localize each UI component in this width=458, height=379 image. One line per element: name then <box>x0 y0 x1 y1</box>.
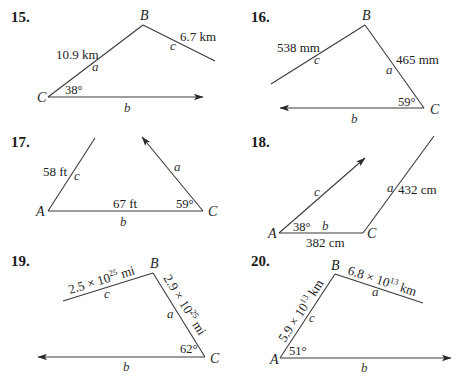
side-a-label: a <box>92 59 99 74</box>
side-c-label: c <box>74 168 80 183</box>
side-c-label: c <box>314 52 320 67</box>
vertex-label-c: C <box>37 90 47 105</box>
side-a-label: a <box>372 284 379 299</box>
side-c-label: c <box>309 310 315 325</box>
angle-c-value: 59° <box>176 197 194 211</box>
side-a-length: 465 mm <box>396 52 439 67</box>
vertex-label-c: C <box>210 351 220 366</box>
problem-number: 18. <box>251 134 270 150</box>
problem-number: 15. <box>11 9 30 25</box>
problem-18: 18. A C c a 432 cm 38° b 382 cm <box>251 134 437 250</box>
side-b-label: b <box>351 111 358 126</box>
triangle-problems-figure: 15. B C 10.9 km a 6.7 km c 38° b 16. B C… <box>0 0 458 379</box>
vertex-label-b: B <box>140 8 149 23</box>
side-c-length: 6.7 km <box>180 29 216 44</box>
side-a-label: a <box>174 159 181 174</box>
angle-a-value: 51° <box>289 344 307 358</box>
side-a-ray <box>142 137 203 211</box>
problem-number: 20. <box>251 253 270 269</box>
vertex-label-c: C <box>430 102 440 117</box>
vertex-label-c: C <box>367 226 377 241</box>
angle-c-value: 59° <box>398 95 416 109</box>
vertex-label-a: A <box>269 352 279 367</box>
vertex-label-a: A <box>267 226 277 241</box>
side-a-label: a <box>386 62 393 77</box>
side-b-length: 382 cm <box>306 235 345 250</box>
vertex-label-c: C <box>208 204 218 219</box>
vertex-label-b: B <box>362 8 371 23</box>
side-a-length: 2.9 × 1025 mi <box>160 271 210 338</box>
side-a-label: a <box>387 180 394 195</box>
side-a-length: 6.8 × 1013 km <box>346 262 419 299</box>
vertex-label-b: B <box>331 258 340 273</box>
vertex-label-a: A <box>35 204 45 219</box>
problem-number: 17. <box>11 134 30 150</box>
problem-number: 19. <box>11 253 30 269</box>
angle-c-value: 62° <box>180 342 198 356</box>
problem-17: 17. A C 58 ft c a 67 ft 59° b <box>11 134 218 229</box>
side-b-length: 67 ft <box>113 196 138 211</box>
side-b-label: b <box>361 360 368 375</box>
side-c-length: 5.9 × 1013 km <box>274 276 326 345</box>
side-c-label: c <box>314 184 320 199</box>
side-b-label: b <box>123 359 130 374</box>
angle-a-value: 38° <box>293 220 311 234</box>
angle-c-value: 38° <box>65 83 83 97</box>
side-a-label: a <box>167 306 174 321</box>
problem-19: 19. B C 2.5 × 1025 mi c 2.9 × 1025 mi a … <box>11 253 220 374</box>
side-c-label: c <box>104 286 110 301</box>
vertex-label-b: B <box>150 256 159 271</box>
problem-20: 20. B A 6.8 × 1013 km a 5.9 × 1013 km c … <box>251 253 451 375</box>
problem-number: 16. <box>251 9 270 25</box>
side-a-length: 432 cm <box>398 182 437 197</box>
side-b-label: b <box>124 100 131 115</box>
side-c-length: 2.5 × 1025 mi <box>66 261 137 296</box>
side-c-label: c <box>170 38 176 53</box>
side-b-label: b <box>322 218 329 233</box>
problem-15: 15. B C 10.9 km a 6.7 km c 38° b <box>11 8 216 115</box>
side-c-length: 58 ft <box>43 164 68 179</box>
side-b-label: b <box>120 214 127 229</box>
problem-16: 16. B C 538 mm c 465 mm a 59° b <box>251 8 440 126</box>
